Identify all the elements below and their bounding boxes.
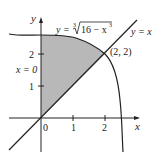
curve-label: y = 3 16 − x 3 (55, 22, 112, 35)
svg-text:16 − x: 16 − x (81, 24, 107, 35)
intersection-label: (2, 2) (110, 46, 132, 58)
y-axis-arrow-icon (39, 17, 43, 23)
axis-x-label: x (134, 120, 140, 132)
y-tick-label-1: 1 (29, 81, 34, 92)
svg-text:y =: y = (55, 24, 70, 35)
boundary-label: x = 0 (15, 64, 37, 75)
axis-y-label: y (30, 12, 36, 24)
region-diagram: y x 0 1 2 1 2 x = 0 (2, 2) y = x y = 3 1… (0, 0, 164, 160)
svg-text:3: 3 (73, 22, 76, 28)
svg-text:3: 3 (109, 22, 112, 28)
line-label: y = x (130, 26, 152, 37)
x-tick-label-0: 0 (43, 122, 48, 133)
x-tick-label-2: 2 (102, 122, 107, 133)
y-tick-label-2: 2 (29, 49, 34, 60)
x-tick-label-1: 1 (71, 122, 76, 133)
